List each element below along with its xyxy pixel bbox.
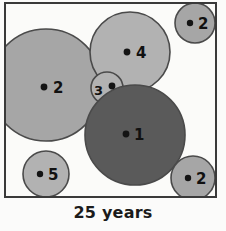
bubble-6-top-right-shape[interactable]: [175, 4, 215, 43]
bubble-3-dot: [109, 83, 116, 90]
bubble-7-bottom-right-dot: [185, 175, 191, 181]
bubble-4-label: 4: [136, 44, 146, 62]
bubble-3-label: 3: [94, 83, 103, 98]
bubble-6-top-right-label: 2: [198, 15, 208, 33]
bubble-canvas: 2 4 3 1 5 2 2: [6, 4, 215, 196]
bubble-6-top-right-dot: [187, 20, 193, 26]
bubble-diagram-figure: 2 4 3 1 5 2 2 25 years: [0, 0, 226, 231]
plot-frame: 2 4 3 1 5 2 2: [4, 2, 217, 198]
bubble-2-large-label: 2: [53, 79, 63, 97]
bubble-4-dot: [124, 49, 131, 56]
figure-caption: 25 years: [0, 203, 226, 222]
bubble-1-label: 1: [134, 126, 144, 144]
bubble-2-large-dot: [41, 84, 48, 91]
bubble-5-shape[interactable]: [23, 151, 69, 196]
bubble-1-dot: [123, 131, 130, 138]
bubble-5-dot: [37, 171, 43, 177]
bubble-7-bottom-right-shape[interactable]: [171, 156, 215, 196]
bubble-5-label: 5: [48, 166, 58, 184]
bubble-7-bottom-right-label: 2: [196, 170, 206, 188]
